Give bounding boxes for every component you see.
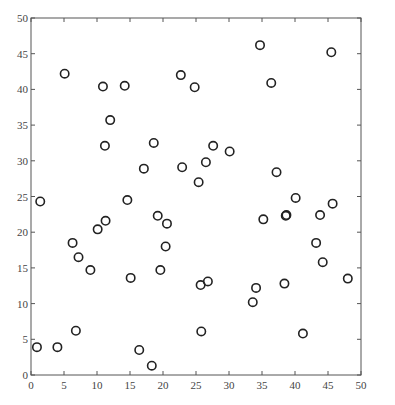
- y-tick-labels: 05101520253035404550: [17, 12, 29, 381]
- x-tick-label: 50: [356, 379, 368, 391]
- y-tick-label: 50: [17, 12, 29, 24]
- x-tick-label: 45: [323, 379, 335, 391]
- x-tick-label: 15: [125, 379, 137, 391]
- x-tick-label: 35: [257, 379, 269, 391]
- y-tick-label: 35: [17, 119, 29, 131]
- scatter-chart: 05101520253035404550 0510152025303540455…: [0, 0, 395, 405]
- plot-area: [31, 18, 361, 375]
- x-tick-label: 30: [224, 379, 236, 391]
- y-tick-label: 5: [23, 333, 29, 345]
- x-tick-labels: 05101520253035404550: [28, 379, 367, 391]
- y-tick-label: 20: [17, 226, 29, 238]
- x-tick-label: 40: [290, 379, 302, 391]
- x-tick-label: 5: [61, 379, 67, 391]
- y-tick-label: 45: [17, 48, 29, 60]
- y-tick-label: 30: [17, 155, 29, 167]
- y-tick-label: 40: [17, 83, 29, 95]
- x-tick-label: 10: [92, 379, 104, 391]
- x-tick-label: 0: [28, 379, 34, 391]
- y-tick-label: 10: [17, 298, 29, 310]
- x-tick-label: 20: [158, 379, 170, 391]
- x-tick-label: 25: [191, 379, 203, 391]
- y-tick-label: 0: [23, 369, 29, 381]
- y-tick-label: 25: [17, 191, 29, 203]
- y-tick-label: 15: [17, 262, 29, 274]
